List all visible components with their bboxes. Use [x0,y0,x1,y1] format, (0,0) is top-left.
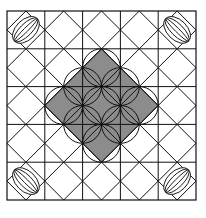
quilt-pattern-svg [0,0,206,218]
pattern-figure [0,0,206,218]
